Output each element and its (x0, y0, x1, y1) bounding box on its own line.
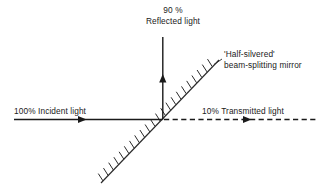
beam-splitter-diagram: 90 % Reflected light 100% Incident light… (0, 0, 327, 193)
mirror-label-leader-line (214, 59, 222, 65)
mirror-surface-line (101, 60, 219, 183)
mirror-annotation-line1: 'Half-silvered' (224, 49, 302, 60)
transmitted-ray-arrowhead (243, 116, 252, 123)
mirror-annotation-label: 'Half-silvered' beam-splitting mirror (224, 49, 302, 70)
half-silvered-mirror (98, 59, 219, 183)
incident-ray (14, 116, 163, 123)
reflected-ray-arrowhead (159, 74, 166, 83)
diagram-canvas (0, 0, 327, 193)
transmitted-ray (164, 116, 316, 123)
incident-light-label: 100% Incident light (14, 106, 86, 117)
reflected-light-text: Reflected light (118, 16, 228, 27)
mirror-annotation-line2: beam-splitting mirror (224, 60, 302, 71)
transmitted-light-label: 10% Transmitted light (202, 106, 284, 117)
reflected-light-label: 90 % Reflected light (118, 5, 228, 26)
reflected-ray (159, 37, 166, 120)
incident-ray-arrowhead (78, 116, 87, 123)
reflected-percent-text: 90 % (118, 5, 228, 16)
